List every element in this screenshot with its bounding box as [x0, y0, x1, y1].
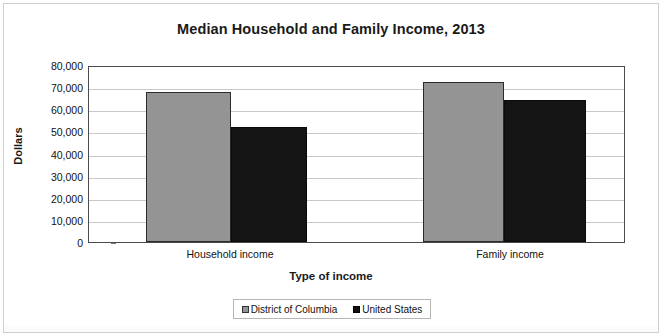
legend-label: District of Columbia — [251, 304, 338, 315]
bar-family-district-of-columbia[interactable] — [423, 82, 504, 242]
black-square-icon — [353, 306, 360, 313]
x-category-label-family: Family income — [430, 248, 590, 260]
y-tick-label: 50,000 — [31, 126, 83, 138]
chart-screenshot: Median Household and Family Income, 2013… — [0, 0, 662, 336]
bar-household-district-of-columbia[interactable] — [146, 92, 231, 242]
y-tick-label: 30,000 — [31, 171, 83, 183]
gray-square-icon — [242, 306, 249, 313]
legend-label: United States — [362, 304, 422, 315]
y-axis-title: Dollars — [12, 106, 24, 186]
y-tick-label: 20,000 — [31, 193, 83, 205]
legend-item-district-of-columbia[interactable]: District of Columbia — [242, 304, 338, 315]
y-tick-label: 40,000 — [31, 149, 83, 161]
x-axis-title: Type of income — [0, 270, 662, 282]
scan-artifact — [4, 326, 658, 332]
y-tick-label: 10,000 — [31, 215, 83, 227]
gridline — [89, 89, 624, 90]
y-axis-ticks: 80,000 70,000 60,000 50,000 40,000 30,00… — [28, 66, 83, 243]
y-tick-label: 80,000 — [31, 60, 83, 72]
chart-legend: District of Columbia United States — [233, 299, 431, 319]
plot-area — [88, 66, 625, 243]
bar-household-united-states[interactable] — [231, 127, 307, 242]
y-tick-label: 0 — [31, 237, 83, 249]
y-tick-mark — [111, 243, 116, 244]
x-category-label-household: Household income — [150, 248, 310, 260]
chart-title: Median Household and Family Income, 2013 — [0, 21, 662, 37]
y-tick-label: 70,000 — [31, 82, 83, 94]
y-tick-label: 60,000 — [31, 104, 83, 116]
legend-item-united-states[interactable]: United States — [353, 304, 422, 315]
bar-family-united-states[interactable] — [504, 100, 586, 242]
